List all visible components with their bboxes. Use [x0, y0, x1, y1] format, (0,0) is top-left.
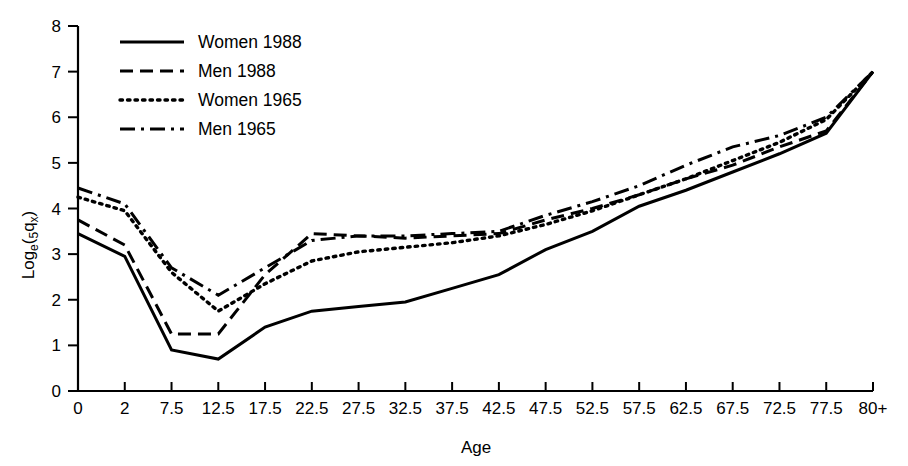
x-tick-label: 47.5 [529, 399, 562, 418]
x-tick-label: 7.5 [160, 399, 184, 418]
x-tick-label: 37.5 [436, 399, 469, 418]
ylabel-log: Log [19, 251, 38, 279]
legend-label-2: Women 1965 [198, 90, 302, 110]
y-tick-label: 6 [52, 108, 61, 127]
ylabel-q: q [19, 222, 38, 231]
x-tick-label: 77.5 [810, 399, 843, 418]
y-tick-label: 5 [52, 154, 61, 173]
legend-label-0: Women 1988 [198, 32, 302, 52]
ylabel-paren-close: ) [19, 211, 38, 217]
chart-figure: 012345678 027.512.517.522.527.532.537.54… [0, 0, 908, 466]
x-tick-label: 27.5 [342, 399, 375, 418]
y-tick-label: 1 [52, 336, 61, 355]
x-tick-label: 42.5 [482, 399, 515, 418]
legend-label-3: Men 1965 [198, 119, 276, 139]
x-tick-label: 0 [73, 399, 82, 418]
x-tick-label: 17.5 [249, 399, 282, 418]
x-tick-label: 12.5 [202, 399, 235, 418]
line-chart: 012345678 027.512.517.522.527.532.537.54… [0, 0, 908, 466]
y-tick-label: 4 [52, 200, 61, 219]
x-tick-label: 57.5 [623, 399, 656, 418]
y-tick-label: 8 [52, 17, 61, 36]
x-tick-label: 72.5 [763, 399, 796, 418]
y-axis-tick-labels: 012345678 [52, 17, 61, 401]
x-tick-label: 52.5 [576, 399, 609, 418]
x-tick-label: 2 [120, 399, 129, 418]
y-tick-label: 2 [52, 291, 61, 310]
x-tick-label: 62.5 [669, 399, 702, 418]
x-tick-label: 32.5 [389, 399, 422, 418]
y-tick-label: 7 [52, 63, 61, 82]
x-tick-label: 22.5 [295, 399, 328, 418]
x-axis-title: Age [461, 438, 491, 457]
x-tick-label: 80+ [859, 399, 888, 418]
x-tick-label: 67.5 [716, 399, 749, 418]
legend-label-1: Men 1988 [198, 61, 276, 81]
y-tick-label: 0 [52, 382, 61, 401]
y-tick-label: 3 [52, 245, 61, 264]
